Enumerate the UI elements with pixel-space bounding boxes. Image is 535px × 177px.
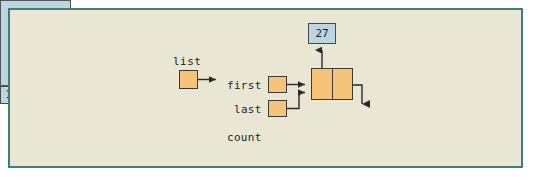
list-variable-box (179, 70, 198, 89)
field-label-count: count (227, 132, 262, 143)
field-slot-first (268, 76, 287, 93)
node-data-cell (312, 69, 333, 99)
node-value-box: 27 (308, 23, 336, 44)
field-label-first: first (227, 80, 262, 91)
diagram-canvas (10, 10, 521, 166)
node-value-text: 27 (315, 28, 328, 39)
field-label-last: last (234, 104, 262, 115)
node-next-cell (333, 69, 353, 99)
list-variable-label: list (173, 56, 202, 67)
list-node (311, 68, 353, 100)
diagram-frame (8, 8, 523, 168)
field-slot-last (268, 100, 287, 117)
diagram-screenshot: list first last count 1 27 (0, 0, 535, 177)
